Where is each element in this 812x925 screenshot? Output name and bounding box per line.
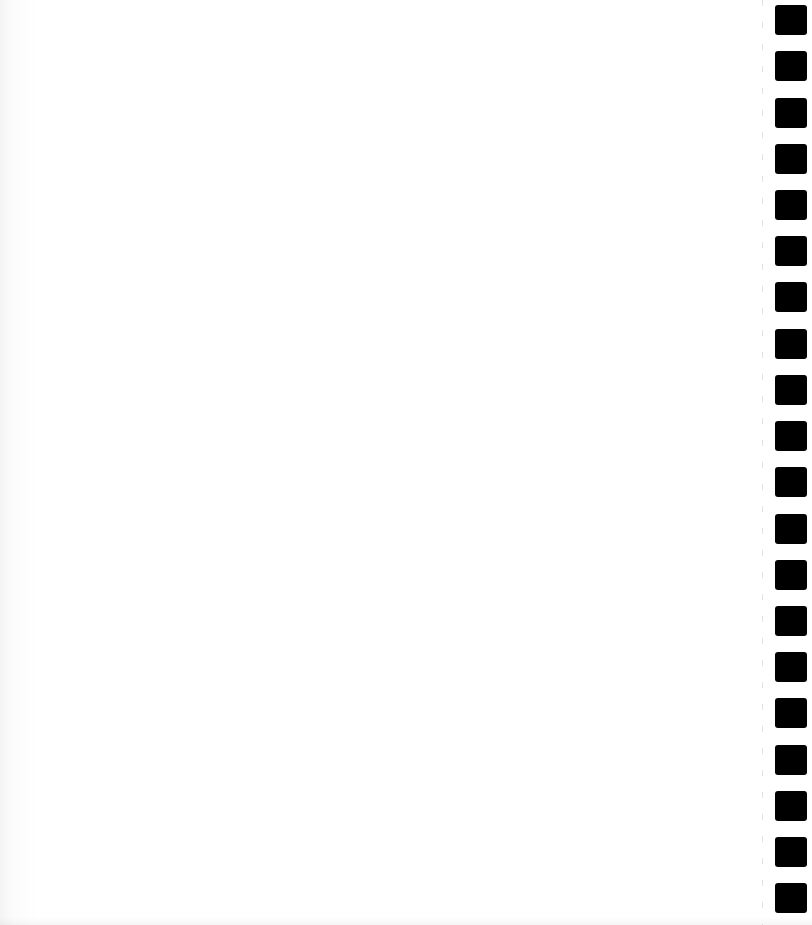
binding-hole [775, 5, 807, 35]
binding-hole [775, 560, 807, 590]
page-bottom-edge [0, 917, 812, 925]
binding-hole [775, 236, 807, 266]
binding-hole [775, 421, 807, 451]
binding-hole [775, 375, 807, 405]
binding-hole [775, 837, 807, 867]
binding-hole [775, 745, 807, 775]
binding-hole [775, 144, 807, 174]
binding-hole [775, 98, 807, 128]
binding-hole [775, 190, 807, 220]
binding-hole [775, 606, 807, 636]
binding-hole [775, 514, 807, 544]
binding-hole [775, 51, 807, 81]
binding-hole [775, 282, 807, 312]
blank-document-page [0, 0, 812, 925]
binding-hole [775, 698, 807, 728]
perforation-line [762, 0, 763, 925]
binding-holes [775, 0, 809, 925]
binding-hole [775, 467, 807, 497]
binding-hole [775, 883, 807, 913]
binding-hole [775, 791, 807, 821]
binding-hole [775, 652, 807, 682]
binding-hole [775, 329, 807, 359]
